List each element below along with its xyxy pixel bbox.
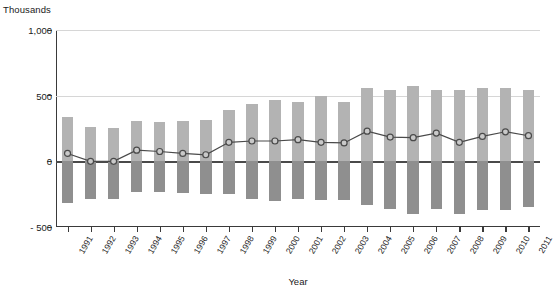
net-change-line	[68, 131, 529, 161]
x-tick-label-1998: 1998	[237, 234, 255, 256]
x-axis: 1991199219931994199519961997199819992000…	[56, 227, 540, 273]
x-tick-mark-1991	[68, 227, 69, 232]
x-tick-mark-2003	[344, 227, 345, 232]
y-axis: - 50005001,000	[0, 30, 52, 227]
net-change-marker	[502, 129, 508, 135]
net-change-marker	[88, 158, 94, 164]
net-change-marker	[318, 139, 324, 145]
x-tick-label-2005: 2005	[399, 234, 417, 256]
x-tick-label-1992: 1992	[99, 234, 117, 256]
x-tick-mark-1995	[160, 227, 161, 232]
x-tick-mark-1998	[229, 227, 230, 232]
net-change-marker	[433, 130, 439, 136]
x-tick-mark-2008	[459, 227, 460, 232]
x-tick-label-2011: 2011	[537, 234, 555, 255]
x-tick-mark-1997	[206, 227, 207, 232]
x-tick-mark-1992	[91, 227, 92, 232]
x-tick-label-1991: 1991	[76, 234, 94, 256]
x-tick-mark-2009	[482, 227, 483, 232]
x-tick-mark-2000	[275, 227, 276, 232]
y-axis-unit-label: Thousands	[3, 4, 51, 15]
x-tick-mark-2004	[367, 227, 368, 232]
x-tick-mark-1999	[252, 227, 253, 232]
y-tick-mark-0	[47, 161, 52, 162]
net-change-marker	[364, 128, 370, 134]
net-change-marker	[203, 152, 209, 158]
x-tick-label-2010: 2010	[514, 234, 532, 256]
x-tick-label-1997: 1997	[214, 234, 232, 256]
x-tick-mark-1996	[183, 227, 184, 232]
x-tick-mark-2005	[390, 227, 391, 232]
net-change-marker	[295, 137, 301, 143]
net-change-marker	[387, 134, 393, 140]
x-tick-mark-2007	[436, 227, 437, 232]
plot-area	[56, 30, 540, 227]
net-change-line-series	[56, 30, 540, 227]
y-tick-mark--500	[47, 227, 52, 228]
x-axis-title: Year	[56, 276, 540, 287]
x-tick-label-2009: 2009	[491, 234, 509, 256]
x-tick-label-2007: 2007	[445, 234, 463, 256]
net-change-marker	[341, 140, 347, 146]
x-tick-label-2006: 2006	[422, 234, 440, 256]
net-change-marker	[410, 135, 416, 141]
x-tick-label-2008: 2008	[468, 234, 486, 256]
x-tick-mark-2006	[413, 227, 414, 232]
x-tick-mark-1994	[137, 227, 138, 232]
x-tick-label-1995: 1995	[168, 234, 186, 256]
net-change-marker	[65, 150, 71, 156]
net-change-marker	[456, 139, 462, 145]
y-tick-mark-500	[47, 95, 52, 96]
x-tick-mark-2001	[298, 227, 299, 232]
y-tick-mark-1000	[47, 30, 52, 31]
net-change-marker	[226, 139, 232, 145]
x-tick-mark-2010	[505, 227, 506, 232]
x-tick-label-1993: 1993	[122, 234, 140, 256]
net-change-marker	[111, 158, 117, 164]
x-tick-mark-2002	[321, 227, 322, 232]
x-tick-mark-2011	[528, 227, 529, 232]
x-tick-label-1999: 1999	[260, 234, 278, 256]
net-change-marker	[525, 133, 531, 139]
net-change-marker	[134, 147, 140, 153]
x-tick-mark-1993	[114, 227, 115, 232]
net-change-marker	[249, 138, 255, 144]
net-change-marker	[180, 150, 186, 156]
x-tick-label-2000: 2000	[284, 234, 302, 256]
net-change-marker	[157, 148, 163, 154]
x-tick-label-2001: 2001	[307, 234, 325, 256]
x-tick-label-2002: 2002	[330, 234, 348, 256]
x-tick-label-1994: 1994	[145, 234, 163, 256]
net-change-marker	[272, 138, 278, 144]
net-change-marker	[479, 133, 485, 139]
x-tick-label-1996: 1996	[191, 234, 209, 256]
x-tick-label-2004: 2004	[376, 234, 394, 256]
x-tick-label-2003: 2003	[353, 234, 371, 256]
